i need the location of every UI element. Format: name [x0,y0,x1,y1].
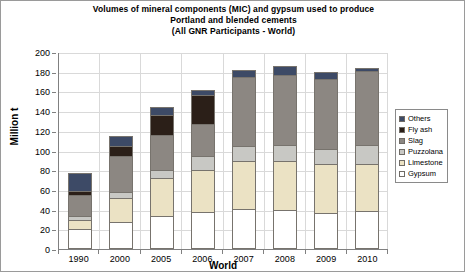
bar-segment-slag[interactable] [232,77,256,147]
legend-swatch-icon [399,138,405,144]
bar-segment-slag[interactable] [355,71,379,146]
y-tick-label: 180 [35,68,50,78]
bar-segment-limestone[interactable] [109,198,133,224]
legend-label: Others [408,113,431,124]
bar-segment-puzzolana[interactable] [314,149,338,166]
y-tick-label: 20 [40,225,50,235]
bar-segment-limestone[interactable] [273,161,297,210]
bar-slot [182,53,223,249]
legend-swatch-icon [399,160,405,166]
y-tick-label: 140 [35,107,50,117]
legend-label: Gypsum [408,168,436,179]
bar-segment-limestone[interactable] [314,164,338,213]
legend-item-gypsum[interactable]: Gypsum [399,168,443,179]
stacked-bar[interactable] [68,173,92,249]
y-tick-label: 100 [35,147,50,157]
bar-segment-gypsum[interactable] [109,222,133,249]
category-separator [387,53,388,249]
stacked-bar[interactable] [273,66,297,249]
bar-segment-slag[interactable] [314,79,338,150]
y-tick-mark [52,211,56,212]
legend-label: Fly ash [408,124,432,135]
bar-segment-slag[interactable] [150,135,174,171]
bar-segment-gypsum[interactable] [191,212,215,249]
y-tick-mark [52,112,56,113]
y-tick-label: 120 [35,127,50,137]
chart-title: Volumes of mineral components (MIC) and … [1,4,465,37]
bar-segment-slag[interactable] [191,124,215,157]
y-tick-mark [52,132,56,133]
bar-segment-gypsum[interactable] [273,210,297,249]
x-tick-mark [58,250,59,254]
bar-segment-limestone[interactable] [232,161,256,209]
legend-swatch-icon [399,127,405,133]
y-tick-label: 160 [35,87,50,97]
legend-item-fly-ash[interactable]: Fly ash [399,124,443,135]
y-tick-mark [52,230,56,231]
bar-segment-fly-ash[interactable] [150,115,174,136]
bar-segment-puzzolana[interactable] [191,156,215,171]
legend-swatch-icon [399,116,405,122]
legend-item-others[interactable]: Others [399,113,443,124]
chart-title-line-1: Volumes of mineral components (MIC) and … [1,4,465,15]
y-tick-mark [52,73,56,74]
x-axis-title: World [58,260,388,271]
bar-segment-limestone[interactable] [355,164,379,211]
y-tick-label: 60 [40,186,50,196]
stacked-bar[interactable] [191,90,215,249]
bar-slot [265,53,306,249]
bar-series-layer [59,53,388,249]
y-axis-ticks: 200180160140120100806040200 [1,53,56,250]
y-tick-mark [52,191,56,192]
bar-segment-gypsum[interactable] [314,213,338,249]
y-tick-mark [52,250,56,251]
bar-segment-gypsum[interactable] [68,229,92,249]
y-tick-mark [52,53,56,54]
bar-segment-puzzolana[interactable] [232,146,256,163]
bar-segment-puzzolana[interactable] [355,145,379,166]
bar-segment-slag[interactable] [68,195,92,217]
legend-label: Slag [408,135,423,146]
legend-label: Puzzolana [408,146,443,157]
bar-segment-limestone[interactable] [150,178,174,216]
y-tick-mark [52,152,56,153]
y-tick-label: 80 [40,166,50,176]
bar-slot [59,53,100,249]
stacked-bar[interactable] [355,68,379,249]
legend-swatch-icon [399,171,405,177]
bar-segment-gypsum[interactable] [150,216,174,249]
y-tick-label: 40 [40,206,50,216]
bar-slot [306,53,347,249]
chart-legend: OthersFly ashSlagPuzzolanaLimestoneGypsu… [395,109,448,183]
y-tick-mark [52,92,56,93]
bar-slot [141,53,182,249]
plot-area [58,53,388,250]
legend-item-limestone[interactable]: Limestone [399,157,443,168]
chart-title-line-3: (All GNR Participants - World) [1,26,465,37]
bar-segment-slag[interactable] [109,156,133,192]
bar-slot [224,53,265,249]
y-tick-mark [52,171,56,172]
legend-item-slag[interactable]: Slag [399,135,443,146]
stacked-bar[interactable] [314,72,338,249]
legend-swatch-icon [399,149,405,155]
chart-container: Volumes of mineral components (MIC) and … [0,0,465,272]
bar-segment-puzzolana[interactable] [273,145,297,163]
chart-title-line-2: Portland and blended cements [1,15,465,26]
x-tick-mark [387,250,388,254]
bar-slot [100,53,141,249]
bar-segment-limestone[interactable] [191,170,215,212]
y-tick-label: 0 [45,245,50,255]
legend-label: Limestone [408,157,443,168]
bar-segment-gypsum[interactable] [355,211,379,249]
legend-item-puzzolana[interactable]: Puzzolana [399,146,443,157]
bar-segment-fly-ash[interactable] [191,95,215,125]
bar-segment-others[interactable] [68,173,92,192]
bar-segment-gypsum[interactable] [232,209,256,249]
stacked-bar[interactable] [232,70,256,249]
bar-slot [347,53,388,249]
stacked-bar[interactable] [150,107,174,249]
bar-segment-slag[interactable] [273,75,297,146]
stacked-bar[interactable] [109,136,133,249]
y-tick-label: 200 [35,48,50,58]
